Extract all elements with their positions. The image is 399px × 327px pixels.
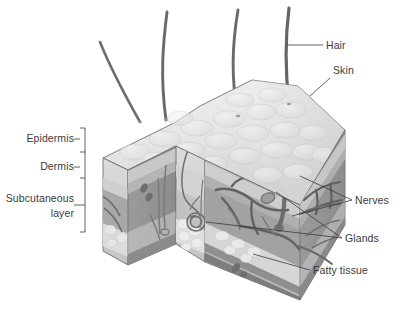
label-subcutaneous-line1: Subcutaneous (0, 192, 74, 204)
left-block-front-face (100, 158, 131, 272)
label-hair: Hair (326, 39, 346, 51)
label-glands: Glands (345, 232, 379, 244)
leader-skin (310, 78, 330, 96)
label-nerves: Nerves (355, 194, 389, 206)
layer-bracket (74, 128, 85, 232)
label-subcutaneous-line2: layer (0, 207, 74, 219)
skin-anatomy-diagram: Epidermis Dermis Subcutaneous layer Hair… (0, 0, 399, 327)
label-skin: Skin (333, 64, 354, 76)
label-fatty-tissue: Fatty tissue (313, 264, 368, 276)
label-epidermis: Epidermis (0, 132, 74, 144)
hair-strand-1 (100, 42, 140, 122)
hair-strand-2 (163, 12, 167, 120)
label-dermis: Dermis (0, 160, 74, 172)
mid-block-front-face (174, 146, 208, 272)
